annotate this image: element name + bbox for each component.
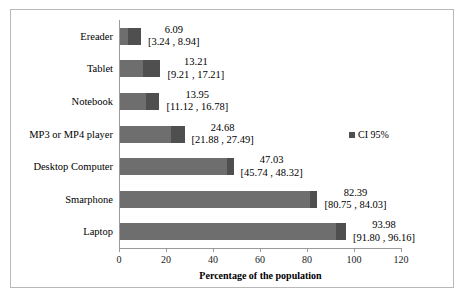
x-tick-label: 100 — [347, 254, 362, 265]
value-text: 13.21 — [167, 56, 224, 69]
ci-text: [21.88 , 27.49] — [192, 134, 254, 147]
ci-marker — [336, 223, 346, 240]
x-tick-label: 0 — [117, 254, 122, 265]
ci-text: [9.21 , 17.21] — [167, 69, 224, 82]
value-text: 82.39 — [324, 187, 386, 200]
bar-row[interactable]: Notebook13.95[11.12 , 16.78] — [120, 93, 402, 110]
value-label: 6.09[3.24 , 8.94] — [148, 24, 200, 49]
ci-text: [3.24 , 8.94] — [148, 36, 200, 49]
bar-row[interactable]: Smarphone82.39[80.75 , 84.03] — [120, 191, 402, 208]
value-label: 13.21[9.21 , 17.21] — [167, 56, 224, 81]
ci-marker — [143, 60, 160, 77]
x-tick — [166, 248, 167, 252]
value-text: 6.09 — [148, 24, 200, 37]
category-label: Ereader — [80, 28, 113, 45]
value-text: 93.98 — [353, 219, 415, 232]
category-label: Laptop — [83, 223, 113, 240]
x-tick-label: 60 — [255, 254, 265, 265]
ci-marker — [146, 93, 159, 110]
ci-marker — [171, 126, 184, 143]
value-label: 13.95[11.12 , 16.78] — [166, 89, 228, 114]
x-tick-label: 20 — [161, 254, 171, 265]
ci-text: [11.12 , 16.78] — [166, 101, 228, 114]
x-tick — [260, 248, 261, 252]
x-tick-label: 80 — [302, 254, 312, 265]
category-label: Tablet — [87, 60, 113, 77]
x-tick-label: 40 — [208, 254, 218, 265]
bar-row[interactable]: Ereader6.09[3.24 , 8.94] — [120, 28, 402, 45]
bar-row[interactable]: Tablet13.21[9.21 , 17.21] — [120, 60, 402, 77]
x-tick — [354, 248, 355, 252]
category-label: MP3 or MP4 player — [29, 126, 113, 143]
legend-swatch-icon — [349, 132, 355, 138]
x-tick — [401, 248, 402, 252]
x-axis-title: Percentage of the population — [119, 270, 402, 281]
value-label: 24.68[21.88 , 27.49] — [192, 122, 254, 147]
ci-marker — [227, 158, 233, 175]
category-label: Desktop Computer — [33, 158, 113, 175]
value-label: 82.39[80.75 , 84.03] — [324, 187, 386, 212]
bar-row[interactable]: Desktop Computer47.03[45.74 , 48.32] — [120, 158, 402, 175]
x-tick — [307, 248, 308, 252]
bar[interactable] — [120, 126, 178, 143]
x-tick-label: 120 — [394, 254, 409, 265]
value-text: 13.95 — [166, 89, 228, 102]
ci-marker — [128, 28, 141, 45]
bar[interactable] — [120, 223, 341, 240]
category-label: Smarphone — [65, 191, 113, 208]
ci-marker — [310, 191, 318, 208]
bar[interactable] — [120, 191, 314, 208]
value-text: 24.68 — [192, 122, 254, 135]
legend-label: CI 95% — [358, 129, 389, 140]
bar[interactable] — [120, 158, 231, 175]
ci-text: [45.74 , 48.32] — [241, 167, 303, 180]
x-tick — [213, 248, 214, 252]
ci-text: [80.75 , 84.03] — [324, 199, 386, 212]
x-tick — [119, 248, 120, 252]
bar-row[interactable]: Laptop93.98[91.80 , 96.16] — [120, 223, 402, 240]
value-label: 47.03[45.74 , 48.32] — [241, 154, 303, 179]
category-label: Notebook — [72, 93, 113, 110]
ci-text: [91.80 , 96.16] — [353, 232, 415, 245]
legend: CI 95% — [349, 129, 389, 140]
value-text: 47.03 — [241, 154, 303, 167]
chart-frame: 020406080100120 Ereader6.09[3.24 , 8.94]… — [10, 9, 454, 288]
value-label: 93.98[91.80 , 96.16] — [353, 219, 415, 244]
